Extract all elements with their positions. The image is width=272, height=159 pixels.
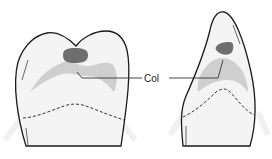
- left-pulp-spot: [63, 48, 88, 63]
- right-tooth: [181, 12, 255, 146]
- left-tooth: [16, 31, 129, 146]
- col-diagram: Col: [0, 0, 272, 159]
- diagram-svg: Col: [0, 0, 272, 159]
- col-label: Col: [144, 73, 159, 84]
